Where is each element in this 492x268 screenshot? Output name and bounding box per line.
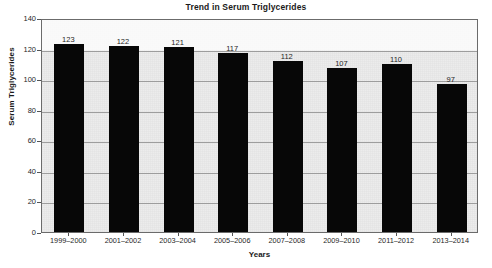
y-tick-mark bbox=[37, 141, 41, 142]
y-tick-label: 60 bbox=[2, 136, 36, 145]
x-tick-label: 2005–2006 bbox=[202, 236, 262, 245]
y-tick-label: 100 bbox=[2, 75, 36, 84]
bar-chart: Trend in Serum Triglycerides Serum Trigl… bbox=[0, 0, 492, 268]
plot-area bbox=[41, 19, 478, 233]
y-tick-mark bbox=[37, 202, 41, 203]
bar bbox=[109, 46, 139, 232]
y-tick-mark bbox=[37, 111, 41, 112]
bar bbox=[54, 44, 84, 232]
x-tick-label: 2011–2012 bbox=[366, 236, 426, 245]
chart-title: Trend in Serum Triglycerides bbox=[0, 2, 492, 12]
bar bbox=[382, 64, 412, 232]
x-tick-label: 2007–2008 bbox=[257, 236, 317, 245]
bar bbox=[437, 84, 467, 232]
x-tick-mark bbox=[123, 233, 124, 236]
bar-value-label: 123 bbox=[48, 35, 88, 44]
y-tick-mark bbox=[37, 19, 41, 20]
bar bbox=[164, 47, 194, 232]
bar bbox=[327, 68, 357, 232]
bar-value-label: 117 bbox=[212, 44, 252, 53]
y-tick-mark bbox=[37, 50, 41, 51]
bar-value-label: 121 bbox=[158, 38, 198, 47]
y-tick-mark bbox=[37, 80, 41, 81]
x-tick-label: 2009–2010 bbox=[311, 236, 371, 245]
x-tick-mark bbox=[232, 233, 233, 236]
x-tick-mark bbox=[68, 233, 69, 236]
y-tick-label: 20 bbox=[2, 197, 36, 206]
x-tick-label: 2003–2004 bbox=[148, 236, 208, 245]
bar bbox=[273, 61, 303, 232]
y-tick-label: 140 bbox=[2, 14, 36, 23]
bar-value-label: 122 bbox=[103, 37, 143, 46]
x-tick-label: 1999–2000 bbox=[38, 236, 98, 245]
gridline bbox=[42, 51, 477, 52]
bar-value-label: 97 bbox=[431, 75, 471, 84]
x-tick-mark bbox=[341, 233, 342, 236]
bar-value-label: 110 bbox=[376, 55, 416, 64]
y-tick-mark bbox=[37, 233, 41, 234]
x-tick-mark bbox=[287, 233, 288, 236]
bar-value-label: 107 bbox=[321, 59, 361, 68]
y-tick-label: 80 bbox=[2, 106, 36, 115]
x-tick-mark bbox=[451, 233, 452, 236]
y-tick-label: 0 bbox=[2, 228, 36, 237]
x-axis-title: Years bbox=[41, 250, 478, 259]
x-tick-mark bbox=[396, 233, 397, 236]
x-tick-label: 2013–2014 bbox=[421, 236, 481, 245]
y-tick-label: 40 bbox=[2, 167, 36, 176]
x-tick-label: 2001–2002 bbox=[93, 236, 153, 245]
bar bbox=[218, 53, 248, 232]
bar-value-label: 112 bbox=[267, 52, 307, 61]
x-tick-mark bbox=[178, 233, 179, 236]
y-tick-mark bbox=[37, 172, 41, 173]
y-tick-label: 120 bbox=[2, 45, 36, 54]
